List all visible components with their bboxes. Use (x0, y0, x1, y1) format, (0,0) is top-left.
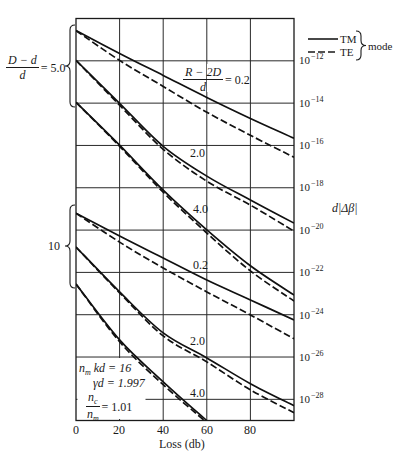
curve-te (76, 213, 294, 339)
group-1-numerator: D − d (6, 54, 39, 68)
y-tick-label: 10−14 (299, 97, 324, 111)
annotation-gammad: γd = 1.997 (93, 377, 145, 389)
y-tick-label: 10−28 (299, 393, 324, 407)
y-tick-label: 10−24 (299, 309, 324, 323)
x-tick-label: 20 (107, 424, 131, 436)
ratio-den-sub: m (93, 414, 99, 423)
x-axis-label: Loss (db) (159, 438, 205, 450)
curve-label-g1-2: 2.0 (190, 147, 205, 159)
group-2-brace-icon (65, 205, 75, 288)
curve-param-value: = 0.2 (225, 73, 250, 87)
group-1-brace-icon (65, 25, 75, 107)
curve-param-numerator: R − 2D (183, 66, 223, 80)
ratio-denominator: nm (87, 407, 99, 422)
curve-te (76, 102, 294, 301)
group-1-denominator: d (19, 68, 25, 81)
curve-param-fraction: R − 2D d (183, 66, 223, 93)
curve-tm (76, 102, 294, 295)
legend-te-label: TE (340, 46, 353, 58)
legend-brace-icon (356, 31, 366, 60)
nmkd-sub: m (85, 368, 91, 377)
legend-tm-label: TM (340, 33, 357, 45)
curve-label-main: R − 2D d = 0.2 (183, 66, 250, 93)
group-1-fraction: D − d d (6, 54, 39, 81)
legend-mode-label: mode (368, 40, 392, 52)
curve-label-g1-3: 4.0 (193, 203, 208, 215)
curve-tm (76, 213, 294, 320)
ratio-den-var: n (87, 407, 93, 421)
group-1-label: D − d d = 5.0 (6, 54, 66, 81)
group-2-label: 10 (48, 240, 60, 252)
curve-param-denominator: d (200, 80, 206, 93)
y-tick-label: 10−16 (299, 139, 324, 153)
x-tick-label: 80 (238, 424, 262, 436)
y-tick-label: 10−12 (299, 54, 324, 68)
curve-label-g2-2: 2.0 (190, 335, 205, 347)
group-1-value: = 5.0 (41, 61, 66, 75)
y-tick-label: 10−22 (299, 266, 324, 280)
ratio-fraction: nc nm (86, 391, 100, 422)
ratio-num-sub: c (94, 397, 98, 406)
ratio-numerator: nc (86, 391, 100, 407)
y-tick-label: 10−26 (299, 351, 324, 365)
x-tick-label: 0 (64, 424, 88, 436)
y-tick-label: 10−20 (299, 224, 324, 238)
x-tick-label: 60 (195, 424, 219, 436)
y-axis-label: d|Δβ| (332, 202, 358, 214)
annotation-nmkd: nm kd = 16 (79, 362, 131, 376)
curve-label-g2-3: 4.0 (190, 387, 205, 399)
y-tick-label: 10−18 (299, 181, 324, 195)
curve-label-g2-1: 0.2 (193, 259, 208, 271)
ratio-value: = 1.01 (102, 400, 133, 414)
nmkd-rest: kd = 16 (91, 361, 131, 375)
annotation-ratio: nc nm = 1.01 (86, 391, 132, 422)
x-tick-label: 40 (151, 424, 175, 436)
